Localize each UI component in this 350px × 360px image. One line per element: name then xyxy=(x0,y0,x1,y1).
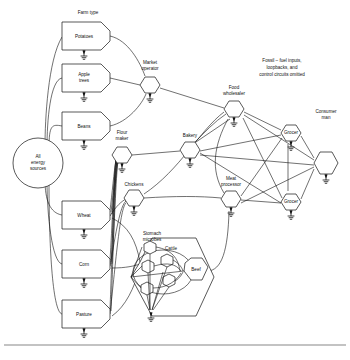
beef-label: Beef xyxy=(191,267,201,272)
apple-trees-label-line2: trees xyxy=(79,78,90,83)
pasture-label: Pasture xyxy=(76,312,92,317)
microbe-hexagon-5 xyxy=(141,282,153,295)
food-wholesaler-label-line2: wholesaler xyxy=(223,91,245,96)
meat-processor-label-line1: Meat xyxy=(226,176,237,181)
microbe-hexagon-4 xyxy=(163,274,175,287)
consumer-man-label-line2: man xyxy=(322,115,331,120)
market-operator-label-line1: Market xyxy=(143,60,158,65)
market-operator-label-line2: operator xyxy=(141,66,159,71)
source-label-line2: energy xyxy=(31,160,46,165)
node-all-energy-sources[interactable]: All energy sources xyxy=(13,138,63,188)
corn-label: Corn xyxy=(79,262,89,267)
grocer-lower-label: Grocer xyxy=(284,199,299,204)
meat-processor-label-line2: processor xyxy=(221,182,242,187)
flour-maker-label-line1: Flour xyxy=(117,130,128,135)
apple-trees-label-line1: Apple xyxy=(78,72,90,77)
food-wholesaler-label-line1: Food xyxy=(229,85,240,90)
potatoes-label: Potatoes xyxy=(75,34,94,39)
microbe-hexagon-3 xyxy=(142,260,154,273)
flour-maker-label-line2: maker xyxy=(116,136,129,141)
bakery-label: Bakery xyxy=(183,133,198,138)
chickens-label: Chickens xyxy=(125,182,145,187)
grocer-upper-label: Grocer xyxy=(284,130,299,135)
stomach-microbes-label-line2: microbes xyxy=(143,237,162,242)
note-line-3: control circuits omitted xyxy=(259,72,305,77)
source-label-line1: All xyxy=(35,154,40,159)
microbe-hexagon-2 xyxy=(161,254,173,267)
microbe-hexagon-1 xyxy=(144,241,156,254)
note-line-1: Fossil – fuel inputs, xyxy=(262,58,301,63)
column-label-farm-type: Farm type xyxy=(78,10,99,15)
wheat-label: Wheat xyxy=(77,213,91,218)
beans-label: Beans xyxy=(77,124,91,129)
energy-systems-diagram: All energy sources Farm type Fossil – fu… xyxy=(0,0,350,360)
note-line-2: loopbacks, and xyxy=(267,65,298,70)
consumer-man-label-line1: Consumer xyxy=(315,109,337,114)
source-label-line3: sources xyxy=(30,166,47,171)
stomach-microbes-label-line1: Stomach xyxy=(143,231,162,236)
